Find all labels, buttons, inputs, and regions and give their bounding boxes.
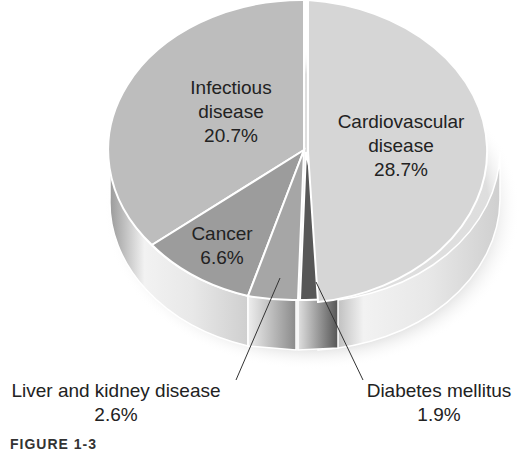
label-infectious-pct: 20.7% bbox=[168, 124, 294, 148]
label-diabetes-line1: Diabetes mellitus bbox=[364, 379, 514, 403]
label-infectious-line2: disease bbox=[168, 100, 294, 124]
slice-side-liver bbox=[248, 296, 296, 350]
label-diabetes-pct: 1.9% bbox=[364, 403, 514, 427]
label-cardiovascular: Cardiovascular disease 28.7% bbox=[326, 110, 476, 182]
label-diabetes: Diabetes mellitus 1.9% bbox=[364, 379, 514, 427]
label-liver-line1: Liver and kidney disease bbox=[0, 379, 232, 403]
label-liver-kidney: Liver and kidney disease 2.6% bbox=[0, 379, 232, 427]
label-infectious: Infectious disease 20.7% bbox=[168, 76, 294, 148]
slice-side-diabetes bbox=[298, 298, 338, 350]
label-cardio-line1: Cardiovascular bbox=[326, 110, 476, 134]
label-infectious-line1: Infectious bbox=[168, 76, 294, 100]
figure-caption: FIGURE 1-3 bbox=[10, 436, 97, 452]
label-cardio-pct: 28.7% bbox=[326, 158, 476, 182]
label-cancer-line1: Cancer bbox=[172, 222, 272, 246]
label-liver-pct: 2.6% bbox=[0, 403, 232, 427]
label-cancer: Cancer 6.6% bbox=[172, 222, 272, 270]
label-cardio-line2: disease bbox=[326, 134, 476, 158]
label-cancer-pct: 6.6% bbox=[172, 246, 272, 270]
